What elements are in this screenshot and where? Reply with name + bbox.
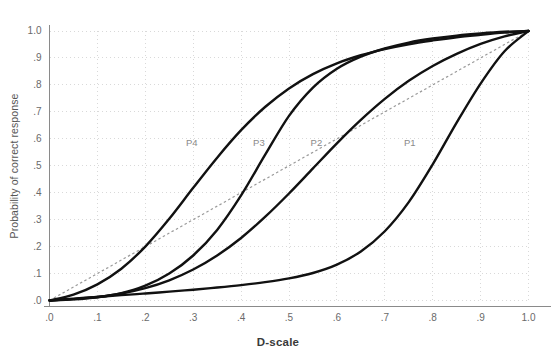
x-tick-label: .8 [418, 312, 448, 323]
x-tick-label: .6 [322, 312, 352, 323]
x-tick-label: .1 [82, 312, 112, 323]
curve-label-p2: P2 [311, 137, 323, 148]
x-tick-label: .2 [130, 312, 160, 323]
y-tick-label: .0 [16, 295, 42, 306]
x-tick-label: .3 [178, 312, 208, 323]
x-tick-label: .0 [35, 312, 65, 323]
curve-label-p4: P4 [186, 137, 198, 148]
curve-label-p3: P3 [253, 137, 265, 148]
x-tick-label: .5 [274, 312, 304, 323]
x-tick-label: .4 [226, 312, 256, 323]
curve-label-p1: P1 [404, 137, 416, 148]
x-axis-title: D-scale [0, 336, 556, 348]
y-axis-title: Probability of correct response [8, 66, 20, 266]
chart-container: .0.1.2.3.4.5.6.7.8.91.0 .0.1.2.3.4.5.6.7… [0, 0, 556, 362]
y-tick-label: .9 [16, 52, 42, 63]
x-tick-label: .7 [370, 312, 400, 323]
plot-area [0, 0, 556, 362]
x-tick-label: .9 [466, 312, 496, 323]
x-tick-label: 1.0 [514, 312, 544, 323]
y-tick-label: .1 [16, 268, 42, 279]
y-tick-label: 1.0 [16, 25, 42, 36]
